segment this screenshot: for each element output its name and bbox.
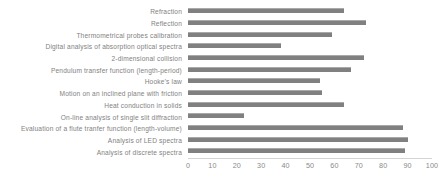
bar [188,43,281,48]
category-row: Analysis of LED spectra [0,135,182,147]
category-label: Reflection [151,20,182,27]
bar-row [188,53,432,65]
bar [188,20,366,25]
category-row: Hooke's law [0,76,182,88]
bar [188,148,405,153]
category-row: On-line analysis of single slit diffract… [0,111,182,123]
category-axis-labels: Refraction Reflection Thermometrical pro… [0,6,182,158]
bar-row [188,18,432,30]
bar [188,90,322,95]
category-label: Refraction [150,8,182,15]
category-row: Evaluation of a flute tranfer function (… [0,123,182,135]
plot-area [188,6,432,158]
category-row: Motion on an inclined plane with frictio… [0,88,182,100]
axis-tick-label: 90 [403,161,411,170]
axis-tick-label: 40 [281,161,289,170]
bar-row [188,135,432,147]
category-label: 2-dimensional collision [112,55,182,62]
category-row: 2-dimensional collision [0,53,182,65]
category-row: Refraction [0,6,182,18]
category-row: Analysis of discrete spectra [0,146,182,158]
axis-tick-label: 30 [257,161,265,170]
bar [188,55,364,60]
bar [188,67,351,72]
bar-row [188,146,432,158]
bar [188,137,408,142]
value-axis-tick-labels: 0102030405060708090100 [188,161,432,177]
bar-row [188,29,432,41]
category-label: Analysis of discrete spectra [97,149,182,156]
bar-row [188,123,432,135]
axis-tick-label: 80 [379,161,387,170]
category-label: Analysis of LED spectra [108,137,182,144]
category-label: Evaluation of a flute tranfer function (… [21,125,182,132]
category-row: Heat conduction in solids [0,100,182,112]
bar [188,125,403,130]
bar [188,8,344,13]
value-axis-line [188,158,432,159]
bar-row [188,76,432,88]
bar-row [188,64,432,76]
bar-row [188,100,432,112]
category-label: Heat conduction in solids [104,102,182,109]
category-label: Pendulum transfer function (length-perio… [51,67,182,74]
bar-row [188,111,432,123]
axis-tick-label: 50 [306,161,314,170]
axis-tick-label: 10 [208,161,216,170]
category-label: Motion on an inclined plane with frictio… [60,90,182,97]
axis-tick-label: 0 [186,161,190,170]
bar-row [188,41,432,53]
bar [188,78,320,83]
axis-tick-label: 100 [426,161,438,170]
axis-tick-label: 20 [233,161,241,170]
category-label: On-line analysis of single slit diffract… [61,114,182,121]
bar-row [188,6,432,18]
bar [188,113,244,118]
category-row: Reflection [0,18,182,30]
category-label: Hooke's law [145,78,182,85]
category-row: Pendulum transfer function (length-perio… [0,64,182,76]
category-row: Thermometrical probes calibration [0,29,182,41]
horizontal-bar-chart: Refraction Reflection Thermometrical pro… [0,0,448,181]
category-label: Thermometrical probes calibration [76,32,182,39]
bar-row [188,88,432,100]
bar [188,102,344,107]
axis-tick-label: 70 [355,161,363,170]
axis-tick-label: 60 [330,161,338,170]
bar [188,32,332,37]
category-row: Digital analysis of absorption optical s… [0,41,182,53]
category-label: Digital analysis of absorption optical s… [45,43,182,50]
